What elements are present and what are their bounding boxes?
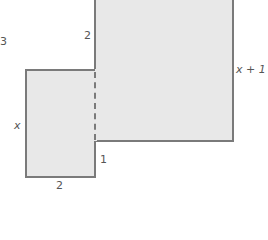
- large-rectangle: [94, 0, 234, 142]
- dashed-divider: [94, 72, 96, 140]
- label-big-right: x + 1: [236, 64, 266, 75]
- label-big-top-left: 2: [84, 30, 91, 41]
- label-small-bottom: 2: [56, 180, 63, 191]
- label-step: 1: [100, 154, 107, 165]
- small-rectangle-lower-right-edge: [94, 141, 96, 178]
- label-small-left: x: [14, 120, 21, 131]
- small-rectangle: [25, 69, 96, 178]
- label-corner: 3: [0, 36, 7, 47]
